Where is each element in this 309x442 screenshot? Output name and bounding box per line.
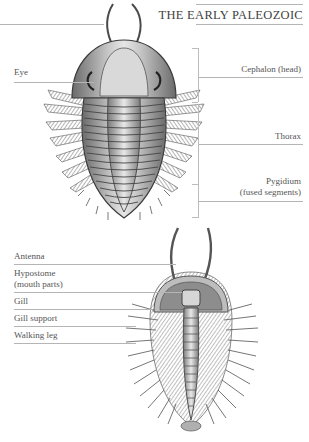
leader-cephalon [199,77,303,78]
bracket-pygidium-bottom [192,217,198,218]
label-thorax: Thorax [275,131,301,142]
label-eye: Eye [14,67,28,78]
label-antenna: Antenna [14,251,45,262]
label-walking-leg: Walking leg [14,330,58,341]
leader-eye [14,82,94,83]
leader-gill [14,309,152,310]
leader-thorax [199,144,303,145]
dorsal-trilobite-drawing [44,4,204,220]
bracket-cephalon-bottom [192,102,198,103]
bracket-pygidium-top [192,184,198,185]
label-pygidium-line1: Pygidium [266,176,301,187]
leader-gill-support [14,326,136,327]
bracket-cephalon-top [192,48,198,49]
leader-walking-leg [14,343,136,344]
label-gill-support: Gill support [14,313,57,324]
label-gill: Gill [14,296,28,307]
leader-pygidium [199,201,303,202]
leader-antenna [14,264,176,265]
label-hypostome-line1: Hypostome [14,268,56,279]
leader-top-left [0,24,104,25]
label-hypostome-line2: (mouth parts) [14,279,63,290]
leader-hypostome [14,292,182,293]
label-cephalon: Cephalon (head) [241,64,301,75]
ventral-trilobite-drawing [126,228,258,431]
bracket-cephalon [198,48,199,102]
label-pygidium-line2: (fused segments) [240,187,301,198]
